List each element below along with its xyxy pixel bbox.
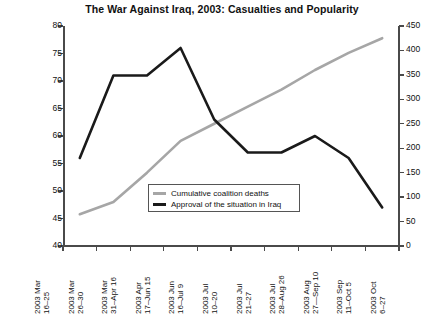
left-axis-tick-label: 80 [22, 21, 62, 30]
right-axis-tick [399, 221, 404, 222]
chart-legend: Cumulative coalition deaths Approval of … [148, 184, 300, 212]
right-axis-tick [399, 148, 404, 149]
plot-area [63, 26, 399, 246]
left-axis-tick-label: 65 [22, 104, 62, 113]
legend-item-cumulative-coalition-deaths: Cumulative coalition deaths [153, 188, 295, 199]
right-axis-tick-label: 250 [406, 119, 444, 128]
left-axis-tick-label: 55 [22, 159, 62, 168]
right-axis-tick-label: 50 [406, 217, 444, 226]
right-axis-tick [399, 25, 404, 26]
left-axis-tick-label: 60 [22, 131, 62, 140]
legend-item-approval-of-the-situation-in-iraq: Approval of the situation in Iraq [153, 199, 295, 210]
left-axis-tick-label: 45 [22, 214, 62, 223]
legend-swatch-icon-black [153, 203, 166, 206]
right-axis-tick [399, 172, 404, 173]
right-axis-tick [399, 99, 404, 100]
chart-container: The War Against Iraq, 2003: Casualties a… [0, 0, 444, 315]
left-axis-tick-label: 40 [22, 241, 62, 250]
right-axis-tick [399, 245, 404, 246]
right-axis-tick-label: 400 [406, 45, 444, 54]
right-axis-tick [399, 123, 404, 124]
legend-swatch-icon-gray [153, 192, 166, 195]
x-axis-label: 2003 Oct6–27 [388, 250, 410, 314]
chart-title: The War Against Iraq, 2003: Casualties a… [0, 3, 444, 15]
right-axis-tick-label: 450 [406, 21, 444, 30]
series-lines [63, 26, 399, 246]
right-axis-tick-label: 0 [406, 241, 444, 250]
left-axis-tick-label: 75 [22, 49, 62, 58]
right-axis-tick-label: 100 [406, 192, 444, 201]
right-axis-tick-label: 300 [406, 94, 444, 103]
right-axis-tick [399, 50, 404, 51]
right-axis-tick [399, 196, 404, 197]
right-axis-tick [399, 74, 404, 75]
left-axis-tick-label: 50 [22, 186, 62, 195]
left-axis-tick-label: 70 [22, 76, 62, 85]
right-axis-tick-label: 150 [406, 168, 444, 177]
legend-label: Cumulative coalition deaths [171, 189, 269, 198]
right-axis-tick-label: 350 [406, 70, 444, 79]
legend-label: Approval of the situation in Iraq [171, 200, 281, 209]
right-axis-tick-label: 200 [406, 143, 444, 152]
